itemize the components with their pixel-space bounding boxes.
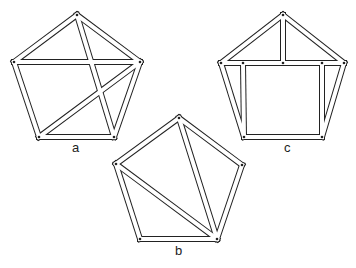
joint-pin-icon: [216, 238, 219, 241]
joint-pin-icon: [139, 238, 142, 241]
bar-fill: [221, 15, 283, 63]
joint-pin-icon: [220, 62, 223, 65]
bar-fill: [179, 118, 217, 239]
bar-fill: [116, 118, 179, 164]
figure-c: [220, 14, 346, 139]
figure-a: [13, 14, 142, 139]
joint-pin-icon: [321, 136, 324, 139]
joint-pin-icon: [38, 136, 41, 139]
figure-label-a: a: [72, 141, 79, 154]
joint-pin-icon: [282, 14, 285, 17]
joint-pin-icon: [282, 62, 285, 65]
bar-fill: [322, 63, 344, 137]
joint-pin-icon: [241, 164, 244, 167]
joint-pin-icon: [243, 136, 246, 139]
figure-label-c: c: [284, 141, 291, 154]
bar-fill: [14, 15, 77, 62]
bar-fill: [217, 165, 242, 239]
joint-pin-icon: [13, 61, 16, 64]
figure-label-b: b: [175, 244, 182, 257]
bar-fill: [283, 15, 344, 63]
figure-b: [115, 117, 244, 241]
joint-pin-icon: [113, 136, 116, 139]
joint-pin-icon: [178, 117, 181, 120]
joint-pin-icon: [76, 14, 79, 17]
joint-pin-icon: [321, 62, 324, 65]
bar-fill: [14, 62, 39, 137]
joint-pin-icon: [242, 62, 245, 65]
bar-fill: [243, 63, 244, 137]
joint-pin-icon: [115, 163, 118, 166]
bar-fill: [77, 15, 114, 137]
truss-diagram: [0, 0, 356, 268]
joint-pin-icon: [139, 61, 142, 64]
joint-pin-icon: [343, 62, 346, 65]
bar-fill: [116, 164, 217, 239]
